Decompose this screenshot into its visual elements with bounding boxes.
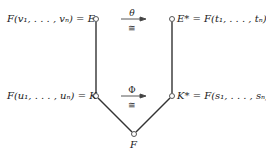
label-K: F(u₁, . . . , uₙ) = K [7,90,97,102]
label-K-star: K* = F(s₁, . . . , sₙ) [177,90,266,102]
label-E: F(v₁, . . . , vₙ) = E [7,13,95,25]
node-K-star [170,94,175,99]
phi-label: Φ [119,85,145,95]
iso-symbol-bottom: ≅ [119,100,145,110]
node-F [132,132,137,137]
label-E-star: E* = F(t₁, . . . , tₙ) [177,13,266,25]
node-E-star [170,17,175,22]
theta-label: θ [119,8,145,18]
iso-symbol-top: ≅ [119,23,145,33]
label-F: F [130,139,137,151]
